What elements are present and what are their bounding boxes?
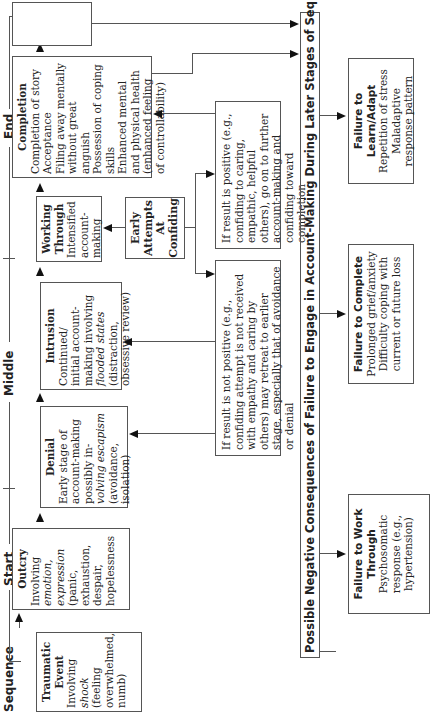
box-completion: Completion Completion of story Acceptanc…: [12, 56, 152, 178]
box-early-attempts: Early Attempts At Confiding: [125, 197, 185, 259]
box-denial: Denial Early stage of account-making pos…: [40, 406, 128, 508]
arrow-right-icon: [36, 393, 44, 402]
consequences-header: Possible Negative Consequences of Failur…: [300, 12, 320, 658]
connector: [192, 53, 290, 54]
arrow-down-icon: [290, 20, 299, 28]
connector: [92, 23, 290, 24]
connector: [132, 341, 215, 342]
arrow-down-icon: [337, 112, 346, 120]
connector: [110, 227, 125, 228]
box-failure-learn-adapt: Failure to Learn/Adapt Repetition of str…: [348, 58, 414, 184]
box-failure-complete: Failure to Complete Prolonged grief/anxi…: [348, 244, 414, 384]
arrow-down-icon: [206, 170, 215, 178]
box-title: Failure to Complete: [352, 248, 365, 380]
arrow-up-icon: [129, 430, 138, 438]
box-title: Outcry: [16, 532, 29, 606]
arrow-right-icon: [36, 267, 44, 276]
connector: [19, 622, 20, 628]
connector: [162, 113, 215, 114]
box-title: Traumatic Event: [40, 636, 65, 708]
arrow-right-icon: [36, 183, 44, 192]
box-title: Intrusion: [44, 286, 57, 386]
connector: [320, 115, 338, 116]
box-traumatic-event: Traumatic Event Involving shock (feeling…: [36, 632, 142, 712]
box-title: Working Through: [40, 200, 65, 258]
box-identity-change: [12, 2, 92, 46]
stage-divider: [9, 590, 10, 662]
stage-divider: [9, 402, 10, 544]
arrow-down-icon: [290, 50, 299, 58]
arrow-up-icon: [103, 224, 112, 232]
stage-tick: [9, 661, 21, 662]
note-negative: If result is not positive (e.g., confidi…: [215, 260, 281, 456]
connector: [185, 227, 195, 228]
box-working-through: Working Through Intensified account- mak…: [36, 196, 102, 262]
box-title: Failure to Learn/Adapt: [352, 62, 377, 180]
box-outcry: Outcry Involving emotion, expression (pa…: [12, 528, 130, 610]
box-title: Denial: [44, 410, 57, 504]
connector: [320, 651, 336, 652]
box-title: Completion: [16, 60, 29, 174]
connector: [320, 553, 338, 554]
arrow-right-icon: [15, 613, 23, 622]
arrow-up-icon: [153, 110, 162, 118]
account-making-diagram: Sequence Start Middle End Traumatic Even…: [0, 0, 436, 714]
arrow-down-icon: [337, 550, 346, 558]
arrow-down-icon: [206, 270, 215, 278]
connector: [192, 54, 193, 74]
arrow-up-icon: [123, 338, 132, 346]
box-title: Failure to Work Through: [352, 498, 377, 610]
stage-tick: [3, 258, 15, 259]
arrow-right-icon: [36, 513, 44, 522]
note-positive: If result is positive (e.g., confiding t…: [215, 101, 281, 249]
stage-divider: [9, 17, 10, 109]
connector: [195, 174, 196, 274]
stage-tick: [3, 488, 15, 489]
box-failure-work-through: Failure to Work Through Psychosomatic re…: [348, 494, 430, 614]
connector: [152, 73, 192, 74]
box-title: Early Attempts At Confiding: [130, 198, 180, 258]
connector: [138, 433, 215, 434]
box-intrusion: Intrusion Continued/ initial account- ma…: [40, 282, 122, 390]
arrow-down-icon: [337, 310, 346, 318]
connector: [320, 313, 338, 314]
stage-divider: [9, 147, 10, 342]
stage-label-middle: Middle: [2, 351, 16, 397]
